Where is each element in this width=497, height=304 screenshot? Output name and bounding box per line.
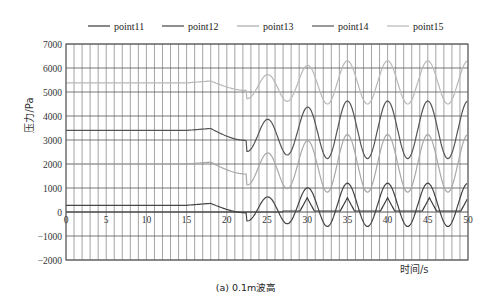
y-axis-label: 压力/Pa — [23, 97, 35, 132]
series-point13 — [66, 135, 467, 193]
x-axis-label: 时间/s — [400, 263, 429, 275]
pressure-time-chart: −2000−100001000200030004000500060007000 … — [0, 0, 497, 304]
legend-label: point13 — [263, 21, 294, 32]
y-tick: 2000 — [43, 160, 62, 170]
x-tick: 5 — [104, 215, 109, 225]
data-series — [66, 61, 467, 227]
x-tick: 10 — [142, 215, 152, 225]
y-tick: 5000 — [43, 88, 62, 98]
x-tick: 35 — [343, 215, 353, 225]
x-tick: 30 — [302, 215, 312, 225]
y-tick: 3000 — [43, 136, 62, 146]
x-tick: 45 — [423, 215, 433, 225]
legend-label: point11 — [114, 21, 144, 32]
grid-lines — [66, 44, 468, 260]
x-tick: 15 — [182, 215, 192, 225]
x-tick: 50 — [463, 215, 473, 225]
legend-label: point12 — [188, 21, 219, 32]
y-tick: 7000 — [43, 40, 62, 50]
y-tick: 0 — [57, 208, 62, 218]
y-tick: 6000 — [43, 64, 62, 74]
x-tick: 40 — [383, 215, 393, 225]
figure-caption: (a) 0.1m波高 — [216, 282, 277, 293]
x-tick: 0 — [64, 215, 69, 225]
x-tick: 20 — [222, 215, 232, 225]
legend-label: point14 — [338, 21, 369, 32]
legend-label: point15 — [413, 21, 444, 32]
y-tick: 4000 — [43, 112, 62, 122]
y-tick: 1000 — [43, 184, 62, 194]
series-point15 — [66, 61, 467, 104]
y-tick-labels: −2000−100001000200030004000500060007000 — [38, 40, 63, 266]
legend: point11point12point13point14point15 — [88, 21, 444, 32]
series-point14 — [66, 101, 467, 159]
y-tick: −2000 — [38, 256, 63, 266]
y-tick: −1000 — [38, 232, 63, 242]
x-tick: 25 — [262, 215, 272, 225]
